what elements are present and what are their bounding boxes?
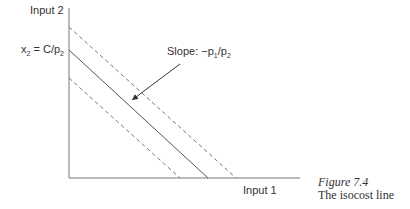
slope-arrow [132,64,180,100]
y-axis-label: Input 2 [30,4,64,16]
intercept-label: x2 = C/p2 [21,43,64,57]
x-axis-label: Input 1 [243,184,277,196]
lower-isocost-line [69,78,180,178]
isocost-line [69,50,208,178]
figure: Input 2 x2 = C/p2 Slope: −p1/p2 Input 1 … [0,0,410,209]
caption-text: The isocost line [318,188,394,202]
slope-label: Slope: −p1/p2 [167,45,231,59]
figure-caption: Figure 7.4 The isocost line [318,176,394,202]
